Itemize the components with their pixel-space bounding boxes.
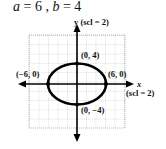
- x-axis-arrow-right-icon: [126, 81, 134, 88]
- x-axis-arrow-left-icon: [18, 81, 26, 88]
- point-right: [104, 82, 108, 86]
- y-axis-label: y (scl = 2): [74, 18, 109, 27]
- point-label-bottom: (0, −4): [81, 106, 104, 115]
- y-axis-arrow-down-icon: [74, 134, 81, 142]
- point-label-left: (−6, 0): [16, 70, 39, 79]
- x-axis-scale: (scl = 2): [126, 89, 154, 98]
- point-left: [46, 82, 50, 86]
- point-bottom: [75, 103, 79, 107]
- point-label-right: (6, 0): [108, 70, 126, 79]
- point-label-top: (0, 4): [81, 51, 99, 60]
- point-top: [75, 62, 79, 66]
